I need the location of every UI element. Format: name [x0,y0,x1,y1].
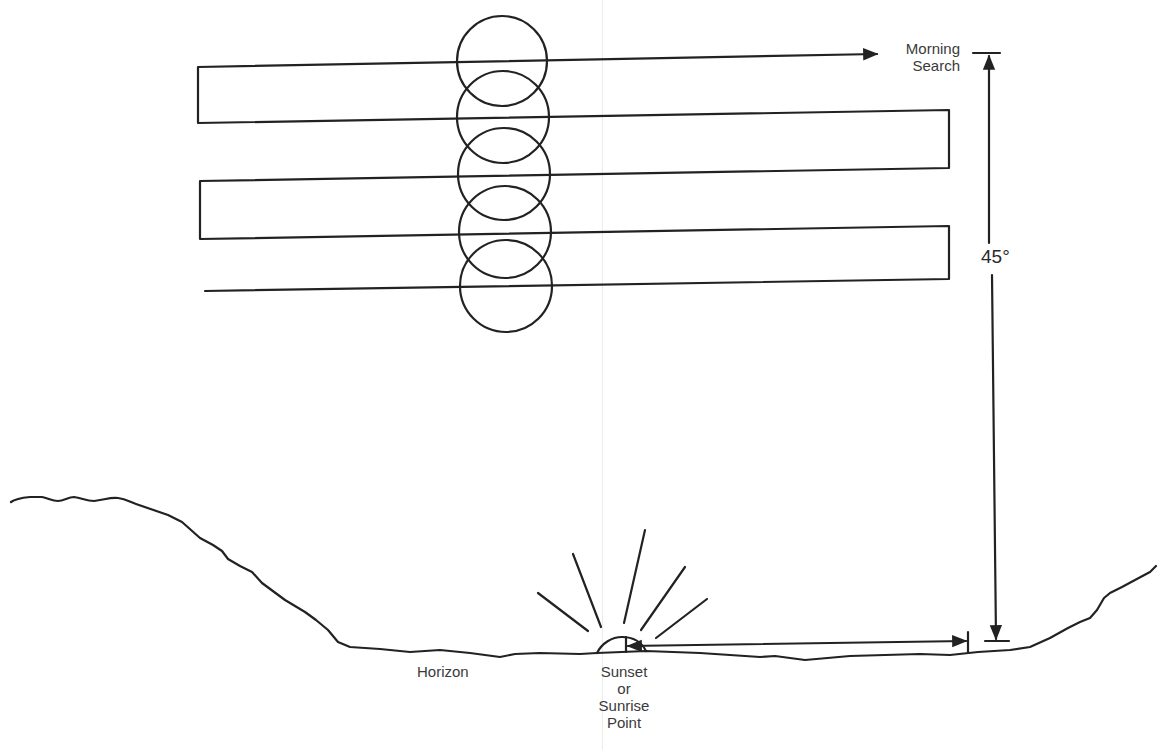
morning-search-label: Morning Search [880,40,960,74]
sun-ray [538,593,588,631]
sun-point-line-1: Sunset [586,663,662,680]
scan-circle [459,186,551,278]
diagram-canvas [0,0,1164,750]
sun-point-line-2: or [586,680,662,697]
dimension-lower-arrow [992,275,996,639]
sun-point-line-4: Point [586,714,662,731]
morning-search-line-2: Search [880,57,960,74]
search-path [198,54,949,291]
morning-search-line-1: Morning [880,40,960,57]
scan-circle [458,128,550,220]
horizontal-arrow [628,641,966,646]
angle-dimension [973,53,1009,641]
angle-label: 45° [979,246,1012,268]
horizon-label: Horizon [417,663,469,680]
horizontal-pointer [626,632,968,652]
sun-ray [656,599,707,638]
sun-ray [573,554,601,627]
sun-icon [538,530,707,653]
sun-ray [624,530,645,623]
sun-point-label: Sunset or Sunrise Point [586,663,662,731]
sun-point-line-3: Sunrise [586,697,662,714]
